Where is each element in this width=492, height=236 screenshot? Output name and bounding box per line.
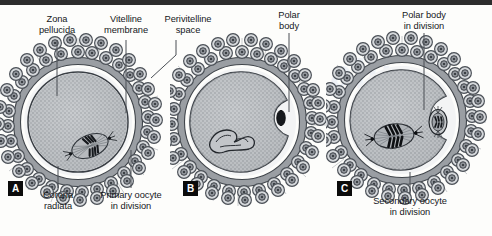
label-secondary-oocyte-line1: Secondary oocyte xyxy=(360,196,460,207)
panel-tag-c: C xyxy=(337,181,352,196)
label-secondary-oocyte: Secondary oocyte in division xyxy=(360,196,460,217)
label-primary-oocyte: Primary oocyte in division xyxy=(90,190,172,211)
figure-oocyte-maturation: alue xyxy=(0,0,492,236)
label-vitelline-membrane-line1: Vitelline xyxy=(92,14,160,25)
label-zona-pellucida: Zona pellucida xyxy=(24,14,90,35)
label-perivitelline-space-line2: space xyxy=(152,25,224,36)
label-corona-radiata: Corona radiata xyxy=(30,190,86,211)
label-primary-oocyte-line2: in division xyxy=(90,201,172,212)
label-polar-body-line2: body xyxy=(263,21,315,32)
panel-tag-b: B xyxy=(183,181,198,196)
label-polar-body-in-division-line1: Polar body xyxy=(388,10,460,21)
label-polar-body-line1: Polar xyxy=(263,10,315,21)
label-perivitelline-space: Perivitelline space xyxy=(152,14,224,35)
label-zona-pellucida-line1: Zona xyxy=(24,14,90,25)
label-primary-oocyte-line1: Primary oocyte xyxy=(90,190,172,201)
label-polar-body-in-division: Polar body in division xyxy=(388,10,460,31)
label-vitelline-membrane: Vitelline membrane xyxy=(92,14,160,35)
label-corona-radiata-line1: Corona xyxy=(30,190,86,201)
label-zona-pellucida-line2: pellucida xyxy=(24,25,90,36)
label-polar-body-in-division-line2: in division xyxy=(388,21,460,32)
label-vitelline-membrane-line2: membrane xyxy=(92,25,160,36)
panel-tag-a: A xyxy=(8,181,23,196)
label-polar-body: Polar body xyxy=(263,10,315,31)
label-secondary-oocyte-line2: in division xyxy=(360,207,460,218)
leader-perivitelline-space xyxy=(151,40,176,78)
label-corona-radiata-line2: radiata xyxy=(30,201,86,212)
label-perivitelline-space-line1: Perivitelline xyxy=(152,14,224,25)
